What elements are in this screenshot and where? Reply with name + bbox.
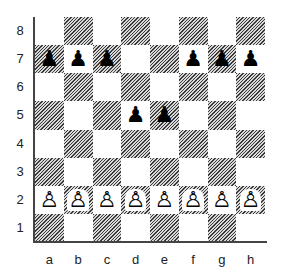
square-d2[interactable]: ♙ <box>121 186 150 214</box>
square-b5[interactable] <box>64 101 93 129</box>
square-c1[interactable] <box>93 214 122 242</box>
file-label-f: f <box>179 252 207 267</box>
file-label-a: a <box>35 252 63 267</box>
square-g8[interactable] <box>208 17 237 45</box>
square-f7[interactable]: ♟ <box>179 45 208 73</box>
black-pawn-icon[interactable]: ♟ <box>155 104 175 126</box>
board-bottom-border <box>33 241 267 243</box>
square-a1[interactable] <box>35 214 64 242</box>
square-e1[interactable] <box>150 214 179 242</box>
white-pawn-icon[interactable]: ♙ <box>39 189 61 211</box>
white-pawn-icon[interactable]: ♙ <box>240 189 262 211</box>
square-h4[interactable] <box>236 130 265 158</box>
square-a6[interactable] <box>35 73 64 101</box>
square-g3[interactable] <box>208 158 237 186</box>
square-f1[interactable] <box>179 214 208 242</box>
file-label-d: d <box>122 252 150 267</box>
file-label-c: c <box>93 252 121 267</box>
square-f4[interactable] <box>179 130 208 158</box>
black-pawn-icon[interactable]: ♟ <box>212 48 232 70</box>
chess-board: ♟♟♟♟♟♟♟♟♙♙♙♙♙♙♙♙ <box>35 17 265 242</box>
square-a5[interactable] <box>35 101 64 129</box>
black-pawn-icon[interactable]: ♟ <box>241 48 261 70</box>
square-g1[interactable] <box>208 214 237 242</box>
white-pawn-icon[interactable]: ♙ <box>67 189 89 211</box>
square-c5[interactable] <box>93 101 122 129</box>
square-d1[interactable] <box>121 214 150 242</box>
square-f2[interactable]: ♙ <box>179 186 208 214</box>
square-d4[interactable] <box>121 130 150 158</box>
square-e3[interactable] <box>150 158 179 186</box>
white-pawn-icon[interactable]: ♙ <box>154 189 176 211</box>
black-pawn-icon[interactable]: ♟ <box>126 104 146 126</box>
black-pawn-icon[interactable]: ♟ <box>97 48 117 70</box>
square-d7[interactable] <box>121 45 150 73</box>
black-pawn-icon[interactable]: ♟ <box>183 48 203 70</box>
square-a4[interactable] <box>35 130 64 158</box>
square-b2[interactable]: ♙ <box>64 186 93 214</box>
square-e7[interactable] <box>150 45 179 73</box>
square-c8[interactable] <box>93 17 122 45</box>
square-d8[interactable] <box>121 17 150 45</box>
white-pawn-icon[interactable]: ♙ <box>125 189 147 211</box>
square-c4[interactable] <box>93 130 122 158</box>
square-b3[interactable] <box>64 158 93 186</box>
rank-label-5: 5 <box>12 107 28 122</box>
square-c2[interactable]: ♙ <box>93 186 122 214</box>
square-h5[interactable] <box>236 101 265 129</box>
square-b4[interactable] <box>64 130 93 158</box>
square-e6[interactable] <box>150 73 179 101</box>
rank-label-8: 8 <box>12 23 28 38</box>
white-pawn-icon[interactable]: ♙ <box>182 189 204 211</box>
white-pawn-icon[interactable]: ♙ <box>211 189 233 211</box>
black-pawn-icon[interactable]: ♟ <box>40 48 60 70</box>
white-pawn-icon[interactable]: ♙ <box>96 189 118 211</box>
square-a8[interactable] <box>35 17 64 45</box>
square-f6[interactable] <box>179 73 208 101</box>
square-g4[interactable] <box>208 130 237 158</box>
square-h7[interactable]: ♟ <box>236 45 265 73</box>
square-b1[interactable] <box>64 214 93 242</box>
rank-label-2: 2 <box>12 192 28 207</box>
file-label-b: b <box>64 252 92 267</box>
square-h8[interactable] <box>236 17 265 45</box>
square-f5[interactable] <box>179 101 208 129</box>
rank-label-3: 3 <box>12 164 28 179</box>
square-h2[interactable]: ♙ <box>236 186 265 214</box>
square-d3[interactable] <box>121 158 150 186</box>
square-e2[interactable]: ♙ <box>150 186 179 214</box>
square-e5[interactable]: ♟ <box>150 101 179 129</box>
square-g5[interactable] <box>208 101 237 129</box>
square-g2[interactable]: ♙ <box>208 186 237 214</box>
square-h1[interactable] <box>236 214 265 242</box>
rank-label-4: 4 <box>12 136 28 151</box>
square-a7[interactable]: ♟ <box>35 45 64 73</box>
square-b7[interactable]: ♟ <box>64 45 93 73</box>
square-c6[interactable] <box>93 73 122 101</box>
square-e8[interactable] <box>150 17 179 45</box>
square-c7[interactable]: ♟ <box>93 45 122 73</box>
square-b6[interactable] <box>64 73 93 101</box>
square-d5[interactable]: ♟ <box>121 101 150 129</box>
square-g7[interactable]: ♟ <box>208 45 237 73</box>
square-h6[interactable] <box>236 73 265 101</box>
square-d6[interactable] <box>121 73 150 101</box>
rank-label-1: 1 <box>12 220 28 235</box>
square-f8[interactable] <box>179 17 208 45</box>
rank-label-7: 7 <box>12 51 28 66</box>
square-h3[interactable] <box>236 158 265 186</box>
square-b8[interactable] <box>64 17 93 45</box>
square-e4[interactable] <box>150 130 179 158</box>
square-f3[interactable] <box>179 158 208 186</box>
rank-label-6: 6 <box>12 79 28 94</box>
square-a3[interactable] <box>35 158 64 186</box>
file-label-g: g <box>208 252 236 267</box>
square-a2[interactable]: ♙ <box>35 186 64 214</box>
square-c3[interactable] <box>93 158 122 186</box>
black-pawn-icon[interactable]: ♟ <box>68 48 88 70</box>
square-g6[interactable] <box>208 73 237 101</box>
file-label-h: h <box>237 252 265 267</box>
file-label-e: e <box>150 252 178 267</box>
